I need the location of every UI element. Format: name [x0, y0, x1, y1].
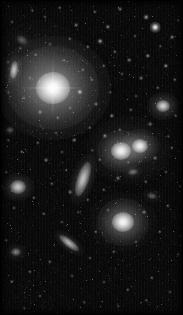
sky-field [0, 0, 183, 315]
astronomical-image [0, 0, 183, 315]
